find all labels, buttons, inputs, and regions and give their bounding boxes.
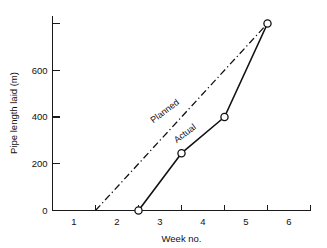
data-point-marker [264,20,271,27]
series-annotation-planned: Planned [148,97,180,125]
chart-series-group [96,20,272,214]
x-axis-title: Week no. [162,233,202,244]
x-tick-label: 2 [114,216,119,227]
y-axis-title: Pipe length laid (m) [8,72,19,154]
x-axis-ticks: 123456 [53,205,311,227]
series-planned-line [96,24,268,211]
data-point-marker [221,113,228,120]
data-point-marker [178,150,185,157]
series-annotation-actual: Actual [172,122,198,145]
x-tick-label: 4 [200,216,205,227]
data-point-marker [135,207,142,214]
x-tick-label: 5 [243,216,248,227]
x-tick-label: 3 [157,216,162,227]
y-tick-label: 600 [32,65,48,76]
chart-axes [53,16,311,211]
chart-canvas: 0200400600 123456 PlannedActual Week no.… [0,0,327,248]
x-tick-label: 1 [71,216,76,227]
y-axis-ticks: 0200400600 [32,24,60,216]
y-tick-label: 400 [32,111,48,122]
x-tick-label: 6 [286,216,291,227]
y-tick-label: 0 [42,205,47,216]
y-tick-label: 200 [32,158,48,169]
series-annotations: PlannedActual [148,97,197,145]
chart-figure: 0200400600 123456 PlannedActual Week no.… [0,0,327,248]
